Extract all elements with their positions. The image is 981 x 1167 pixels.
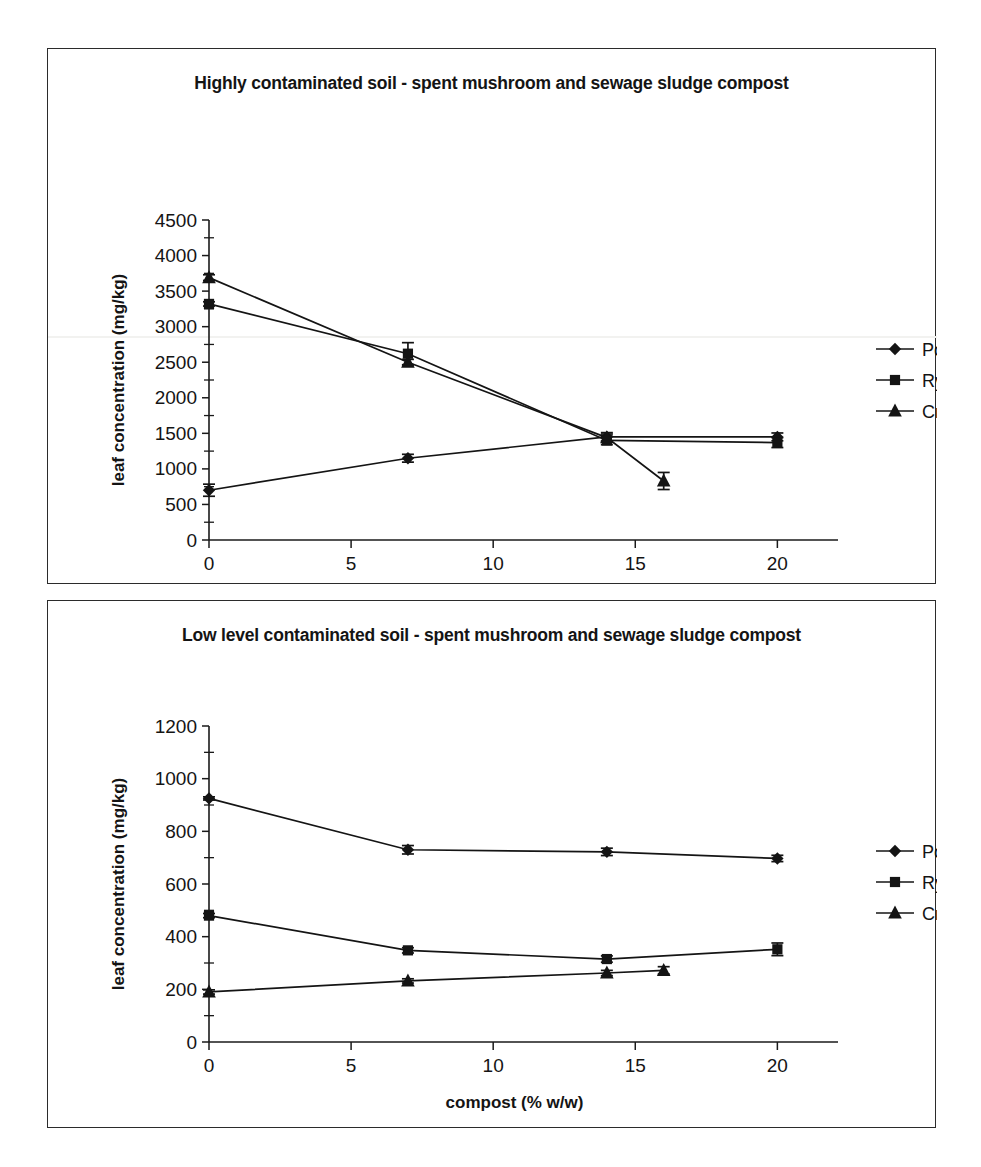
series-polyline [209,916,777,959]
data-point-marker-triangle [202,270,216,283]
y-tick-label: 3000 [155,316,197,337]
y-tick-label: 800 [165,821,197,842]
series-polyline [209,304,777,443]
data-point-marker-square [772,437,782,447]
data-point-marker-square [772,944,782,954]
y-tick-label: 4000 [155,245,197,266]
y-tick-label: 1000 [155,768,197,789]
x-tick-label: 20 [767,553,788,574]
x-tick-label: 5 [346,553,357,574]
series-polyline [209,970,664,992]
figure-page: Highly contaminated soil - spent mushroo… [0,0,981,1167]
chart-panel-highly-contaminated: Highly contaminated soil - spent mushroo… [47,48,936,584]
chart-panel-low-level-contaminated: Low level contaminated soil - spent mush… [47,600,936,1128]
series-polyline [209,798,777,858]
legend-label: Rye [922,371,937,391]
data-point-marker-square [204,299,214,309]
data-point-marker-triangle [657,963,671,976]
legend-item-rye[interactable]: Rye [876,873,937,893]
x-tick-label: 20 [767,1055,788,1076]
data-point-marker-square [890,375,900,385]
x-tick-label: 15 [625,553,646,574]
legend-item-poplar[interactable]: Poplar [876,340,937,360]
line-chart-low-level-contaminated: 02004006008001000120005101520compost (% … [48,601,937,1129]
series-polyline [209,278,664,481]
legend-label: Rye [922,873,937,893]
y-tick-label: 500 [165,494,197,515]
data-point-marker-diamond [889,343,901,355]
data-point-marker-diamond [889,845,901,857]
data-point-marker-triangle [888,404,902,417]
y-tick-label: 200 [165,979,197,1000]
y-axis-title: leaf concentration (mg/kg) [109,274,128,487]
series-poplar [203,792,784,864]
x-tick-label: 0 [204,553,215,574]
series-poplar [203,431,784,497]
series-polyline [209,437,777,490]
line-chart-highly-contaminated: 0500100015002000250030003500400045000510… [48,49,937,585]
y-tick-label: 0 [186,1032,197,1053]
data-point-marker-diamond [771,852,783,864]
series-cress [202,963,670,998]
data-point-marker-triangle [657,474,671,487]
legend-label: Cress [922,904,937,924]
series-cress [202,270,670,489]
series-rye [203,299,783,448]
x-tick-label: 10 [483,1055,504,1076]
y-tick-label: 4500 [155,210,197,231]
legend-item-cress[interactable]: Cress [876,402,937,422]
x-tick-label: 10 [483,553,504,574]
y-tick-label: 600 [165,874,197,895]
y-axis-title: leaf concentration (mg/kg) [109,778,128,991]
y-tick-label: 1500 [155,423,197,444]
x-tick-label: 5 [346,1055,357,1076]
y-tick-label: 3500 [155,281,197,302]
y-tick-label: 0 [186,530,197,551]
x-tick-label: 0 [204,1055,215,1076]
data-point-marker-triangle [888,906,902,919]
y-tick-label: 2500 [155,352,197,373]
legend-label: Poplar [922,340,937,360]
legend-label: Cress [922,402,937,422]
x-axis-title: compost (% w/w) [446,1093,584,1112]
series-rye [203,911,783,965]
legend-item-cress[interactable]: Cress [876,904,937,924]
data-point-marker-square [204,911,214,921]
x-tick-label: 15 [625,1055,646,1076]
legend-item-poplar[interactable]: Poplar [876,842,937,862]
legend-item-rye[interactable]: Rye [876,371,937,391]
data-point-marker-square [403,945,413,955]
data-point-marker-diamond [203,792,215,804]
y-tick-label: 400 [165,926,197,947]
y-tick-label: 1200 [155,716,197,737]
data-point-marker-diamond [203,484,215,496]
y-tick-label: 1000 [155,458,197,479]
data-point-marker-square [602,954,612,964]
y-tick-label: 2000 [155,387,197,408]
data-point-marker-square [890,877,900,887]
legend-label: Poplar [922,842,937,862]
